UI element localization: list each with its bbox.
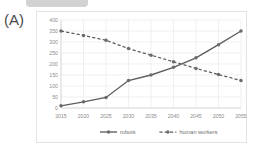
y-axis-tick-labels: 050100150200250300350400 — [49, 17, 58, 111]
legend-item-robots[interactable]: robots — [100, 129, 136, 135]
data-point — [82, 34, 86, 38]
data-point — [217, 73, 221, 77]
data-point — [149, 73, 153, 77]
y-tick-label: 350 — [49, 28, 58, 34]
gridlines — [61, 20, 241, 108]
data-point — [104, 96, 108, 100]
y-tick-label: 200 — [49, 61, 58, 67]
data-point — [194, 56, 198, 60]
x-tick-label: 2015 — [55, 113, 67, 119]
data-point — [82, 100, 86, 104]
cropped-ui-bar — [26, 0, 88, 7]
y-tick-label: 0 — [55, 105, 58, 111]
data-point — [239, 79, 243, 83]
legend-label: human workers — [179, 129, 217, 135]
x-tick-label: 2045 — [190, 113, 202, 119]
y-tick-label: 300 — [49, 39, 58, 45]
data-point — [59, 104, 63, 108]
y-tick-label: 250 — [49, 50, 58, 56]
x-tick-label: 2050 — [213, 113, 225, 119]
legend-label: robots — [120, 129, 136, 135]
y-tick-label: 150 — [49, 72, 58, 78]
x-tick-label: 2020 — [78, 113, 90, 119]
y-tick-label: 400 — [49, 17, 58, 23]
data-point — [194, 67, 198, 71]
chart-legend: robotshuman workers — [100, 129, 218, 135]
chart-card: 050100150200250300350400 201520202025203… — [36, 11, 247, 143]
y-tick-label: 50 — [52, 94, 58, 100]
x-tick-label: 2040 — [168, 113, 180, 119]
data-point — [104, 38, 108, 42]
data-point — [127, 79, 131, 83]
x-tick-label: 2025 — [100, 113, 112, 119]
y-tick-label: 100 — [49, 83, 58, 89]
legend-item-human-workers[interactable]: human workers — [159, 129, 217, 135]
data-point — [172, 66, 176, 70]
x-tick-label: 2055 — [235, 113, 247, 119]
data-point — [127, 47, 131, 51]
panel-label: (A) — [4, 12, 24, 27]
data-point — [217, 43, 221, 47]
data-point — [172, 60, 176, 64]
data-point — [239, 29, 243, 33]
x-tick-label: 2030 — [123, 113, 135, 119]
x-axis-tick-labels: 201520202025203020352040204520502055 — [55, 113, 247, 119]
line-chart: 050100150200250300350400 201520202025203… — [37, 12, 248, 144]
x-tick-label: 2035 — [145, 113, 157, 119]
data-point — [149, 53, 153, 57]
data-point — [59, 29, 63, 33]
